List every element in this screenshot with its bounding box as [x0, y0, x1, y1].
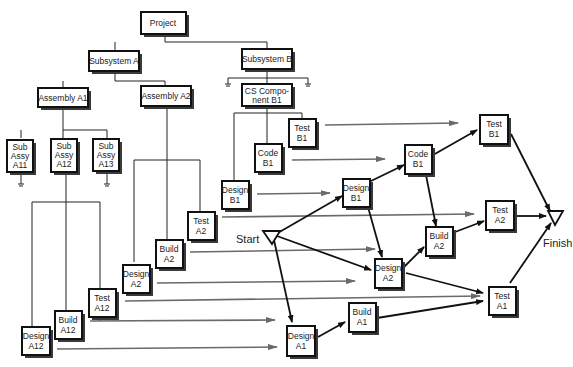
wp-test-a2-l1: Test: [193, 216, 209, 226]
wp-design-b1-l2: B1: [230, 195, 241, 205]
wp-test-a2-l2: A2: [196, 226, 207, 236]
wbs-node-assembly-a2: Assembly A2: [141, 86, 194, 109]
wp-design-b1-l1: Design: [222, 185, 249, 195]
net-test-a2-l2: A2: [495, 215, 506, 225]
wp-design-a2: Design A2: [123, 265, 153, 296]
project-label: Project: [150, 18, 177, 28]
wbs-node-subsystem-a: Subsystem A: [89, 51, 142, 74]
subsystem-b-label: Subsystem B: [242, 54, 292, 64]
assembly-a2-label: Assembly A2: [141, 91, 190, 101]
subsystem-a-label: Subsystem A: [89, 56, 139, 66]
net-node-test-a2: Test A2: [486, 201, 517, 233]
wp-test-a12-l2: A12: [94, 303, 109, 313]
start-node: Start: [236, 231, 280, 245]
wp-test-b1: Test B1: [289, 119, 319, 150]
wp-test-a12-l1: Test: [94, 293, 110, 303]
wp-build-a12-l1: Build: [59, 315, 78, 325]
cs-component-line2: nent B1: [252, 95, 282, 105]
wp-build-a12-l2: A12: [60, 325, 75, 335]
net-design-b1-l2: B1: [351, 193, 362, 203]
wp-build-a2-l2: A2: [164, 254, 175, 264]
net-test-b1-l1: Test: [486, 119, 502, 129]
start-triangle-icon: [263, 231, 280, 244]
wbs-node-cs-component-b1: CS Compo- nent B1: [242, 84, 295, 109]
wbs-network-diagram: Project Subsystem A Subsystem B Assembly…: [0, 0, 573, 367]
wp-design-b1: Design B1: [222, 181, 252, 212]
finish-node: Finish: [543, 211, 572, 249]
net-node-design-b1: Design B1: [343, 179, 373, 210]
wp-build-a12: Build A12: [55, 311, 85, 342]
net-node-design-a1: Design A1: [287, 326, 318, 359]
net-build-a1-l1: Build: [353, 307, 372, 317]
net-node-build-a2: Build A2: [426, 227, 456, 259]
wp-design-a12-l1: Design: [23, 331, 50, 341]
wp-test-a12: Test A12: [89, 289, 119, 320]
net-design-b1-l1: Design: [343, 183, 370, 193]
wbs-node-sub-assy-a12: Sub Assy A12: [51, 139, 80, 175]
sub-assy-a13-l3: A13: [98, 159, 113, 169]
net-design-a2-l2: A2: [383, 273, 394, 283]
wbs-tree-connectors: [21, 35, 308, 339]
wbs-node-sub-assy-a11: Sub Assy A11: [7, 140, 36, 175]
wp-design-a12-l2: A12: [28, 341, 43, 351]
net-node-build-a1: Build A1: [349, 303, 379, 335]
wp-code-b1-l2: B1: [263, 158, 274, 168]
net-design-a2-l1: Design: [375, 263, 402, 273]
net-node-code-b1: Code B1: [405, 145, 435, 177]
wp-design-a12: Design A12: [22, 327, 53, 358]
wbs-node-subsystem-b: Subsystem B: [242, 49, 295, 72]
wp-build-a2-l1: Build: [160, 244, 179, 254]
net-node-test-a1: Test A1: [489, 287, 519, 318]
wp-code-b1-l1: Code: [258, 148, 279, 158]
net-test-a1-l2: A1: [497, 301, 508, 311]
net-code-b1-l1: Code: [408, 149, 429, 159]
net-build-a2-l1: Build: [430, 231, 449, 241]
wp-design-a2-l1: Design: [123, 269, 150, 279]
net-design-a1-l2: A1: [296, 341, 307, 351]
sub-assy-a12-l3: A12: [56, 159, 71, 169]
net-build-a2-l2: A2: [434, 241, 445, 251]
net-test-b1-l2: B1: [489, 129, 500, 139]
wp-test-b1-l1: Test: [294, 123, 310, 133]
wbs-node-project: Project: [141, 12, 189, 37]
wp-code-b1: Code B1: [255, 144, 285, 175]
finish-label: Finish: [543, 237, 572, 249]
net-node-design-a2: Design A2: [375, 259, 405, 291]
wp-test-a2: Test A2: [188, 212, 218, 243]
sub-assy-a11-l3: A11: [13, 160, 28, 170]
net-test-a2-l1: Test: [492, 205, 508, 215]
net-build-a1-l2: A1: [357, 317, 368, 327]
net-design-a1-l1: Design: [288, 331, 315, 341]
start-label: Start: [236, 233, 259, 245]
net-test-a1-l1: Test: [494, 291, 510, 301]
wp-build-a2: Build A2: [156, 240, 186, 271]
assembly-a1-label: Assembly A1: [38, 93, 87, 103]
net-code-b1-l2: B1: [413, 159, 424, 169]
wp-design-a2-l2: A2: [131, 279, 142, 289]
wp-test-b1-l2: B1: [297, 133, 308, 143]
wbs-node-assembly-a1: Assembly A1: [38, 88, 91, 110]
net-node-test-b1: Test B1: [480, 115, 511, 147]
wbs-node-sub-assy-a13: Sub Assy A13: [93, 139, 122, 174]
